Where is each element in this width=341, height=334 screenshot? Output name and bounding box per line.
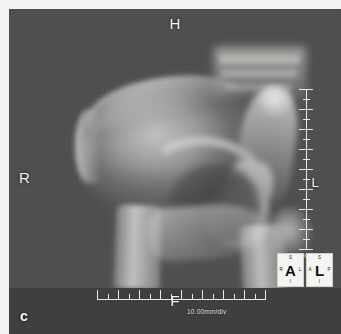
vertical-tick-minor <box>303 179 310 180</box>
horizontal-tick-major <box>97 290 98 300</box>
horizontal-tick-major <box>181 290 182 300</box>
cube-a-top-letter: S <box>278 256 303 261</box>
orientation-label-right: R <box>19 169 30 186</box>
horizontal-tick-minor <box>171 294 172 300</box>
left-orientation-cube[interactable]: S A L P I <box>306 253 333 287</box>
vertical-tick-major <box>299 169 313 170</box>
vertical-tick-major <box>299 149 313 150</box>
vertical-scale-ruler <box>299 89 315 249</box>
vertical-tick-minor <box>303 159 310 160</box>
anterior-orientation-cube[interactable]: S R A L I <box>277 253 304 287</box>
orientation-label-head: H <box>9 15 341 32</box>
horizontal-tick-major <box>118 290 119 300</box>
vertical-tick-minor <box>303 139 310 140</box>
horizontal-tick-major <box>265 290 266 300</box>
sacral-segment-1 <box>219 55 299 64</box>
vertical-tick-major <box>299 249 313 250</box>
vertical-tick-minor <box>303 99 310 100</box>
vertical-tick-major <box>299 209 313 210</box>
horizontal-tick-major <box>139 290 140 300</box>
cube-l-bottom-letter: I <box>307 280 332 285</box>
vertical-tick-major <box>299 89 313 90</box>
horizontal-tick-minor <box>108 294 109 300</box>
corner-marker: c <box>20 308 28 324</box>
vertical-tick-major <box>299 109 313 110</box>
horizontal-tick-major <box>160 290 161 300</box>
horizontal-tick-minor <box>129 294 130 300</box>
horizontal-tick-major <box>223 290 224 300</box>
horizontal-tick-minor <box>234 294 235 300</box>
horizontal-tick-major <box>244 290 245 300</box>
vertical-tick-major <box>299 229 313 230</box>
cube-a-bottom-letter: I <box>278 280 303 285</box>
radiograph-viewer: H R F c L 10.00mm/div 10.00mm/div S R A … <box>0 0 341 334</box>
horizontal-tick-minor <box>150 294 151 300</box>
image-canvas[interactable]: H R F c L 10.00mm/div 10.00mm/div S R A … <box>9 9 341 334</box>
horizontal-tick-minor <box>255 294 256 300</box>
horizontal-scale-ruler <box>97 289 265 303</box>
horizontal-tick-major <box>202 290 203 300</box>
orientation-cube-group: S R A L I S A L P I <box>277 253 333 287</box>
cube-l-right-letter: P <box>327 268 330 273</box>
vertical-tick-minor <box>303 199 310 200</box>
horizontal-tick-minor <box>213 294 214 300</box>
vertical-tick-minor <box>303 119 310 120</box>
horizontal-scale-label: 10.00mm/div <box>187 308 226 315</box>
vertical-tick-major <box>299 129 313 130</box>
horizontal-tick-minor <box>192 294 193 300</box>
soft-tissue-haze <box>69 69 299 284</box>
vertical-tick-minor <box>303 219 310 220</box>
vertical-tick-major <box>299 189 313 190</box>
cube-a-right-letter: L <box>299 268 302 273</box>
vertical-tick-minor <box>303 239 310 240</box>
cube-l-top-letter: S <box>307 256 332 261</box>
